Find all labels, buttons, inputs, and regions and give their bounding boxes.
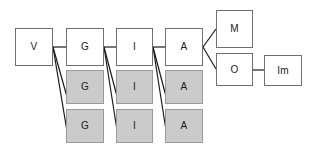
node-a3[interactable]: A <box>165 109 203 143</box>
node-label-g1: G <box>81 42 89 52</box>
node-label-m: M <box>230 24 239 34</box>
edge-a1-o <box>203 47 216 69</box>
node-label-g2: G <box>81 82 89 92</box>
node-m[interactable]: M <box>216 10 253 48</box>
node-i2[interactable]: I <box>116 70 153 104</box>
node-label-v: V <box>31 42 38 52</box>
node-label-a2: A <box>181 82 188 92</box>
node-g1[interactable]: G <box>66 28 104 66</box>
node-label-i2: I <box>133 82 136 92</box>
node-label-a1: A <box>181 42 188 52</box>
node-label-g3: G <box>81 121 89 131</box>
node-label-o: O <box>231 65 239 75</box>
node-a1[interactable]: A <box>165 28 203 66</box>
node-g3[interactable]: G <box>66 109 104 143</box>
edge-a1-m <box>203 29 216 47</box>
node-label-a3: A <box>181 121 188 131</box>
diagram-canvas: VGIAMOImGIAGIA <box>0 0 314 153</box>
node-im[interactable]: Im <box>264 55 302 86</box>
node-v[interactable]: V <box>15 28 53 66</box>
node-o[interactable]: O <box>216 53 253 86</box>
node-i1[interactable]: I <box>116 28 153 66</box>
node-label-im: Im <box>277 66 289 76</box>
node-g2[interactable]: G <box>66 70 104 104</box>
node-label-i3: I <box>133 121 136 131</box>
node-label-i1: I <box>133 42 136 52</box>
node-i3[interactable]: I <box>116 109 153 143</box>
node-a2[interactable]: A <box>165 70 203 104</box>
